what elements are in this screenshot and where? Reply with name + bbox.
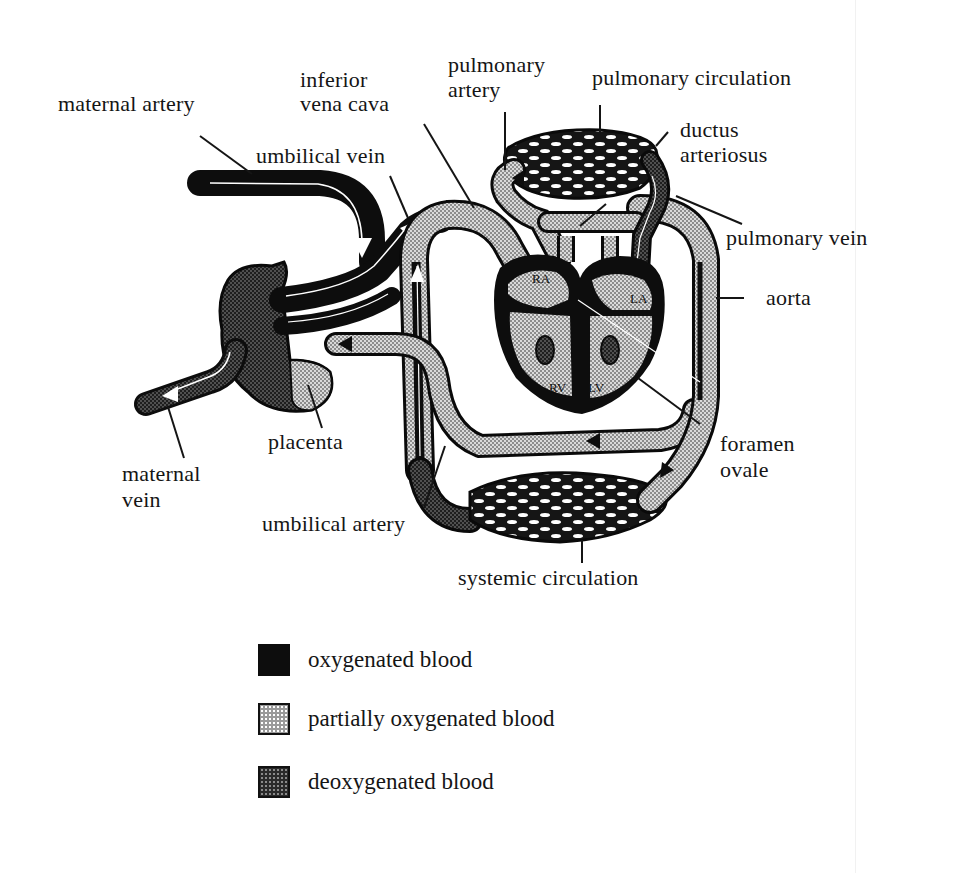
label-inferior-vena-cava-1: inferior [300,68,368,92]
label-ductus-arteriosus-2: arteriosus [680,143,768,167]
label-lv: LV [588,380,605,395]
pulmonary-circulation-bed [504,130,657,198]
label-maternal-vein-1: maternal [122,462,201,486]
systemic-circulation-bed [470,473,666,542]
label-inferior-vena-cava-2: vena cava [300,92,389,116]
heart: RA LA RV LV [494,255,700,415]
leader-inferior-vena-cava [424,124,474,208]
maternal-vein-vessel [146,350,236,404]
label-pulmonary-artery-1: pulmonary [448,53,545,77]
label-maternal-artery: maternal artery [58,92,195,116]
maternal-artery-vessel [200,183,372,262]
label-foramen-ovale-2: ovale [720,458,769,482]
leader-maternal-vein [168,407,184,458]
leader-maternal-artery [200,136,252,174]
label-umbilical-vein: umbilical vein [256,144,385,168]
legend-item-partial: partially oxygenated blood [258,703,555,735]
label-placenta: placenta [268,430,343,454]
label-foramen-ovale-1: foramen [720,432,795,456]
leader-umbilical-vein [390,176,408,218]
legend-item-deoxygenated: deoxygenated blood [258,766,494,798]
label-la: LA [630,291,648,306]
label-maternal-vein-2: vein [122,488,161,512]
label-umbilical-artery: umbilical artery [262,512,405,536]
legend-label: oxygenated blood [308,647,472,673]
legend-item-oxygenated: oxygenated blood [258,644,472,676]
deoxygenated-swatch-icon [258,766,290,798]
label-rv: RV [549,380,567,395]
label-systemic-circulation: systemic circulation [458,566,639,590]
leader-ductus-arteriosus [656,132,668,146]
oxygenated-swatch-icon [258,644,290,676]
label-pulmonary-circulation: pulmonary circulation [592,66,791,90]
label-pulmonary-vein: pulmonary vein [726,226,868,250]
label-aorta: aorta [766,286,811,310]
fetal-circulation-diagram: RA LA RV LV [0,0,967,873]
ductus-arteriosus-vessel [548,222,636,262]
label-pulmonary-artery-2: artery [448,78,501,102]
label-ductus-arteriosus-1: ductus [680,118,739,142]
legend-label: deoxygenated blood [308,769,494,795]
partially-oxygenated-swatch-icon [258,703,290,735]
legend-label: partially oxygenated blood [308,706,555,732]
label-ra: RA [532,271,551,286]
